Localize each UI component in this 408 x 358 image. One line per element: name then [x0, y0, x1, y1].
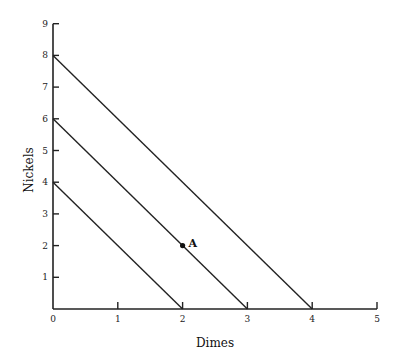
point-a-marker — [180, 243, 185, 248]
x-tick-label: 1 — [115, 314, 121, 324]
y-axis-title: Nickels — [22, 147, 36, 192]
series-lines — [53, 55, 312, 309]
budget-lines-chart: 123456789012345 A Dimes Nickels — [0, 0, 408, 358]
y-tick-label: 3 — [42, 209, 48, 219]
y-tick-label: 5 — [42, 146, 48, 156]
y-tick-label: 9 — [42, 19, 48, 29]
budget-line — [53, 55, 312, 309]
y-tick-label: 1 — [42, 272, 48, 282]
x-axis-title: Dimes — [196, 336, 234, 350]
y-tick-label: 2 — [42, 241, 48, 251]
axes: 123456789012345 — [42, 19, 380, 324]
x-tick-label: 2 — [180, 314, 186, 324]
x-tick-label: 3 — [245, 314, 251, 324]
x-tick-label: 0 — [50, 314, 56, 324]
y-tick-label: 8 — [42, 50, 48, 60]
x-tick-label: 4 — [309, 314, 315, 324]
budget-line — [53, 119, 247, 309]
y-tick-label: 7 — [42, 82, 48, 92]
annotations: A — [180, 237, 198, 250]
budget-line — [53, 182, 183, 309]
point-a-label: A — [188, 237, 198, 250]
x-tick-label: 5 — [374, 314, 380, 324]
y-tick-label: 6 — [42, 114, 48, 124]
y-tick-label: 4 — [42, 177, 48, 187]
